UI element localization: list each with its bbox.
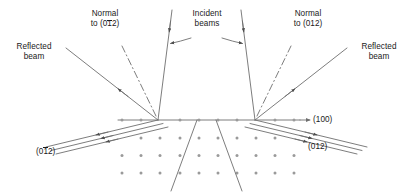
label-plane-012-right: (012) <box>308 142 327 152</box>
overbar-1: 1 <box>107 19 112 29</box>
bulk-lattice-dots <box>121 137 296 175</box>
label-reflected-left-line2: beam <box>24 52 45 61</box>
label-incident-beams: Incident beams <box>168 9 246 30</box>
label-reflected-right-line2: beam <box>369 52 390 61</box>
label-reflected-left-line1: Reflected <box>16 42 51 51</box>
label-plane-100: (100) <box>313 115 332 125</box>
label-normal-left: Normal to (012) <box>74 9 136 30</box>
label-plane-012bar-left: (012) <box>36 147 55 157</box>
label-normal-right-line2: to (012) <box>294 19 323 28</box>
diagram-canvas: Normal to (012) Incident beams Normal to… <box>0 0 412 194</box>
reflected-beam-left <box>66 48 158 120</box>
reflected-beam-right <box>255 48 347 120</box>
label-reflected-beam-left: Reflected beam <box>4 42 64 63</box>
label-normal-right: Normal to (012) <box>277 9 339 30</box>
label-reflected-beam-right: Reflected beam <box>349 42 409 63</box>
label-normal-left-line2: to (012) <box>91 19 120 28</box>
incident-callout-arrow-left <box>171 38 192 44</box>
incident-callout-arrow-right <box>222 38 243 44</box>
diffracted-beams-right <box>245 120 367 154</box>
label-incident-line2: beams <box>195 19 220 28</box>
label-normal-right-line1: Normal <box>295 9 322 18</box>
label-incident-line1: Incident <box>192 9 221 18</box>
diffracted-beams-left <box>46 120 168 154</box>
label-normal-left-line1: Normal <box>92 9 119 18</box>
label-reflected-right-line1: Reflected <box>361 42 396 51</box>
transmitted-beam-left <box>171 120 197 191</box>
overbar-1: 1 <box>43 147 48 157</box>
